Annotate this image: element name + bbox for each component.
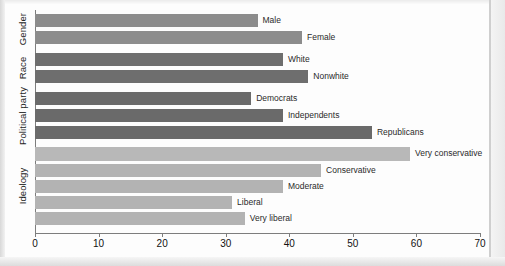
bar bbox=[35, 14, 258, 27]
group-axis-label: Race bbox=[17, 57, 28, 80]
x-axis-tick bbox=[480, 233, 481, 237]
x-axis-tick bbox=[35, 233, 36, 237]
x-axis-tick bbox=[162, 233, 163, 237]
bar bbox=[35, 70, 308, 83]
group-axis-label: Ideology bbox=[17, 168, 28, 205]
x-axis-tick-label: 60 bbox=[411, 238, 422, 249]
bar-label: Republicans bbox=[377, 127, 424, 137]
x-axis-tick-label: 10 bbox=[93, 238, 104, 249]
page-outer-margin bbox=[491, 0, 505, 266]
scanned-page: GenderRacePolitical partyIdeology MaleFe… bbox=[0, 0, 505, 266]
x-axis-tick bbox=[289, 233, 290, 237]
bar-label: Conservative bbox=[326, 165, 376, 175]
bar bbox=[35, 126, 372, 139]
x-axis-tick-label: 70 bbox=[474, 238, 485, 249]
bar-label: Male bbox=[263, 15, 281, 25]
bar bbox=[35, 53, 283, 66]
bar-label: Liberal bbox=[237, 197, 263, 207]
x-axis-tick bbox=[99, 233, 100, 237]
bar-label: Nonwhite bbox=[313, 71, 348, 81]
x-axis-tick-label: 40 bbox=[284, 238, 295, 249]
bar-label: Democrats bbox=[256, 93, 297, 103]
x-axis-tick-label: 50 bbox=[347, 238, 358, 249]
x-axis-line bbox=[35, 233, 480, 234]
bar bbox=[35, 196, 232, 209]
x-axis-tick bbox=[416, 233, 417, 237]
bar bbox=[35, 180, 283, 193]
x-axis-tick-label: 0 bbox=[32, 238, 38, 249]
x-axis-tick-label: 30 bbox=[220, 238, 231, 249]
bar bbox=[35, 92, 251, 105]
bar bbox=[35, 164, 321, 177]
bar-label: White bbox=[288, 54, 310, 64]
x-axis-tick bbox=[353, 233, 354, 237]
horizontal-bar-chart: GenderRacePolitical partyIdeology MaleFe… bbox=[0, 0, 489, 258]
bar bbox=[35, 109, 283, 122]
group-axis-label: Political party bbox=[17, 87, 28, 145]
bar-label: Moderate bbox=[288, 181, 324, 191]
bar bbox=[35, 31, 302, 44]
bar-label: Female bbox=[307, 32, 335, 42]
bar-label: Very liberal bbox=[250, 213, 292, 223]
page-bottom-edge bbox=[0, 257, 505, 266]
group-axis-label: Gender bbox=[17, 13, 28, 45]
bar-label: Independents bbox=[288, 110, 340, 120]
bar bbox=[35, 147, 410, 161]
bar-label: Very conservative bbox=[415, 148, 482, 158]
bar bbox=[35, 212, 245, 225]
x-axis-tick-label: 20 bbox=[157, 238, 168, 249]
x-axis-tick bbox=[226, 233, 227, 237]
